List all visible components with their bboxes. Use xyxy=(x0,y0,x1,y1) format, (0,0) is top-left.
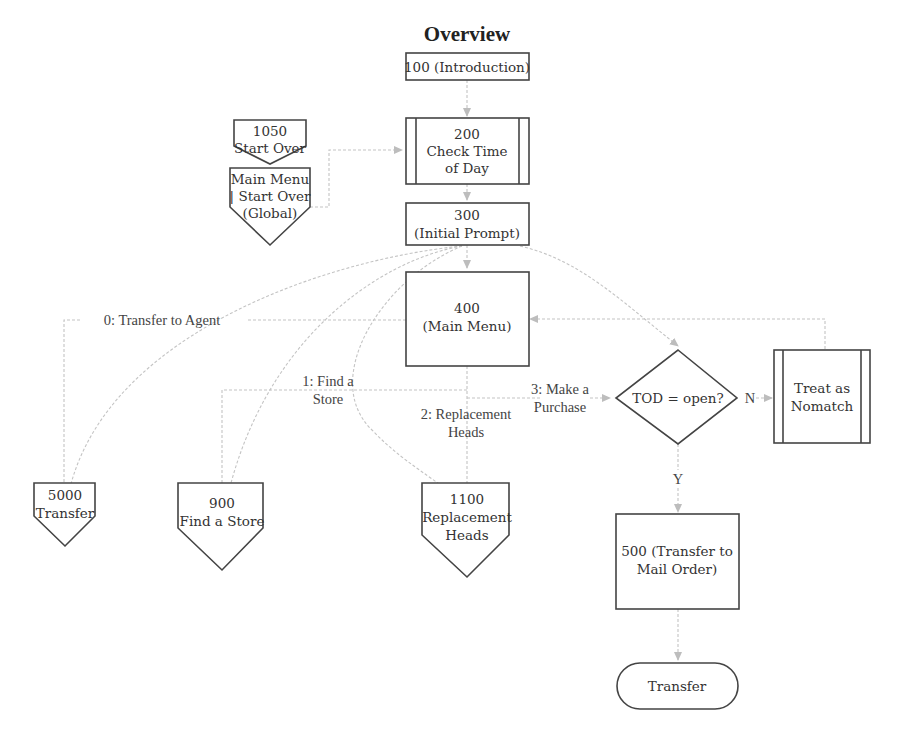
node-label: 1100 xyxy=(450,491,484,507)
edge-400-opt0-b xyxy=(64,320,80,508)
node-label: Replacement xyxy=(422,509,512,525)
node-400-main-menu[interactable]: 400 (Main Menu) xyxy=(406,272,529,366)
node-label: TOD = open? xyxy=(632,390,723,406)
node-transfer-terminator[interactable]: Transfer xyxy=(617,663,738,709)
edge-label-opt2-line2: Heads xyxy=(448,424,485,440)
edge-label-opt3-line2: Purchase xyxy=(534,399,586,415)
edge-nomatch-400 xyxy=(530,319,825,349)
node-label: 300 xyxy=(454,207,480,223)
node-label: (Main Menu) xyxy=(423,318,512,334)
edge-label-opt0: 0: Transfer to Agent xyxy=(104,312,220,328)
node-label: 5000 xyxy=(48,487,82,503)
node-1050-start-over[interactable]: 1050 Start Over xyxy=(234,120,307,164)
node-label: 200 xyxy=(454,126,480,142)
node-label: 900 xyxy=(209,495,235,511)
edge-300-tod-curve xyxy=(520,246,678,346)
edge-label-opt1-line2: Store xyxy=(313,391,344,407)
edge-label-no: N xyxy=(745,390,756,406)
node-label: (Global) xyxy=(243,205,298,221)
flowchart-canvas: Overview xyxy=(0,0,901,737)
node-tod-decision[interactable]: TOD = open? xyxy=(616,350,737,444)
node-label: of Day xyxy=(445,160,489,176)
diagram-title: Overview xyxy=(424,22,511,46)
edge-label-opt3-line1: 3: Make a xyxy=(531,381,590,397)
node-label: Start Over xyxy=(234,140,307,156)
node-label: 500 (Transfer to xyxy=(621,543,733,559)
node-500-transfer-mail-order[interactable]: 500 (Transfer to Mail Order) xyxy=(616,514,739,609)
node-label: Transfer xyxy=(648,678,707,694)
node-label: Find a Store xyxy=(180,513,265,529)
node-900-find-a-store[interactable]: 900 Find a Store xyxy=(178,483,264,570)
node-label: Nomatch xyxy=(791,398,854,414)
node-label: Transfer xyxy=(36,505,95,521)
node-label: 1050 xyxy=(253,123,287,139)
node-300-initial-prompt[interactable]: 300 (Initial Prompt) xyxy=(406,203,529,245)
node-5000-transfer[interactable]: 5000 Transfer xyxy=(34,483,95,546)
node-label: Mail Order) xyxy=(637,561,718,577)
node-100-introduction[interactable]: 100 (Introduction) xyxy=(404,53,530,80)
node-label: 400 xyxy=(454,300,480,316)
node-label: | Start Over xyxy=(230,188,311,204)
node-1100-replacement-heads[interactable]: 1100 Replacement Heads xyxy=(422,483,512,577)
edge-label-opt1-line1: 1: Find a xyxy=(302,373,354,389)
node-label: 100 (Introduction) xyxy=(404,59,530,75)
node-global-main-menu-start-over[interactable]: Main Menu | Start Over (Global) xyxy=(230,168,311,245)
node-label: Main Menu xyxy=(231,171,310,187)
node-label: Heads xyxy=(445,527,488,543)
node-200-check-time[interactable]: 200 Check Time of Day xyxy=(406,118,529,184)
edge-label-opt2-line1: 2: Replacement xyxy=(421,406,512,422)
node-label: Check Time xyxy=(426,143,507,159)
node-label: (Initial Prompt) xyxy=(414,225,520,241)
node-label: Treat as xyxy=(794,380,850,396)
node-treat-as-nomatch[interactable]: Treat as Nomatch xyxy=(774,350,870,443)
edge-label-yes: Y xyxy=(673,471,684,487)
edge-global-200 xyxy=(310,150,402,207)
